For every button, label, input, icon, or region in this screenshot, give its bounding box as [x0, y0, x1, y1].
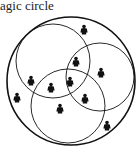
person-icon [81, 94, 88, 104]
venn-diagram [0, 0, 137, 152]
person-icon [66, 77, 73, 87]
person-icon [27, 76, 34, 86]
person-icon [97, 68, 104, 78]
person-icon [103, 121, 110, 131]
person-icon [72, 57, 79, 67]
inner-circle-bottom [31, 69, 105, 143]
person-icon [13, 93, 20, 103]
person-icon [47, 83, 54, 93]
person-icon [56, 104, 63, 114]
person-icon [80, 25, 87, 35]
